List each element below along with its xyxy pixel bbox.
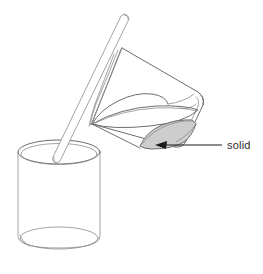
solid-label: solid	[227, 139, 251, 151]
receiving-beaker-body	[18, 152, 100, 248]
figure-root: solid	[0, 0, 263, 274]
chemistry-diagram: solid	[0, 0, 263, 274]
